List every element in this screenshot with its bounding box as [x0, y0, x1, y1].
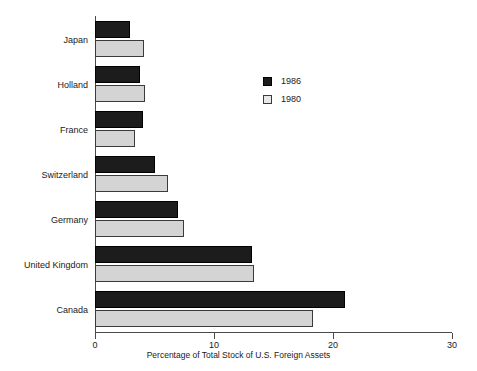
x-tick-label: 30: [447, 340, 457, 350]
bar-1986-france: [95, 111, 143, 128]
bar-1986-germany: [95, 201, 178, 218]
bar-1980-holland: [95, 85, 145, 102]
legend-label-1986: 1986: [281, 76, 301, 86]
legend-swatch-icon-1980: [263, 95, 272, 104]
category-label: Japan: [63, 35, 88, 45]
bar-1986-japan: [95, 21, 130, 38]
category-label: United Kingdom: [24, 260, 88, 270]
legend-item-1980: 1980: [263, 92, 301, 106]
x-tick: [214, 333, 215, 339]
bar-1986-switzerland: [95, 156, 155, 173]
bar-chart: Japan Holland France Switzerland Germany…: [0, 0, 477, 371]
legend-label-1980: 1980: [281, 94, 301, 104]
category-label: Canada: [56, 305, 88, 315]
x-tick-label: 10: [209, 340, 219, 350]
legend: 1986 1980: [263, 74, 301, 110]
x-axis-title: Percentage of Total Stock of U.S. Foreig…: [0, 350, 477, 360]
category-label: France: [60, 125, 88, 135]
x-tick: [333, 333, 334, 339]
bar-1980-france: [95, 130, 135, 147]
legend-swatch-icon-1986: [263, 77, 272, 86]
x-tick-label: 0: [92, 340, 97, 350]
x-tick: [452, 333, 453, 339]
category-axis-labels: Japan Holland France Switzerland Germany…: [0, 0, 88, 317]
bar-1980-switzerland: [95, 175, 168, 192]
plot-area: [95, 16, 452, 333]
bar-1986-canada: [95, 291, 345, 308]
bar-1980-canada: [95, 310, 313, 327]
bar-1986-united-kingdom: [95, 246, 252, 263]
legend-item-1986: 1986: [263, 74, 301, 88]
category-label: Holland: [57, 80, 88, 90]
category-label: Switzerland: [41, 170, 88, 180]
x-tick-label: 20: [328, 340, 338, 350]
bar-1980-united-kingdom: [95, 265, 254, 282]
bar-1980-germany: [95, 220, 184, 237]
category-label: Germany: [51, 215, 88, 225]
bar-1980-japan: [95, 40, 144, 57]
bar-1986-holland: [95, 66, 140, 83]
x-tick: [95, 333, 96, 339]
